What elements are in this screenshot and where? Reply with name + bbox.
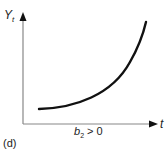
panel-label: (d) (3, 137, 16, 149)
y-axis-label: Yt (4, 8, 14, 24)
condition-label: b2 > 0 (74, 125, 103, 139)
y-axis-arrow-icon (20, 12, 27, 21)
growth-curve (39, 22, 146, 109)
condition-relation: > 0 (84, 125, 103, 137)
y-axis-subscript: t (12, 15, 14, 24)
y-axis-symbol: Y (4, 8, 12, 22)
x-axis-arrow-icon (149, 121, 158, 128)
x-axis-label: t (160, 117, 163, 131)
